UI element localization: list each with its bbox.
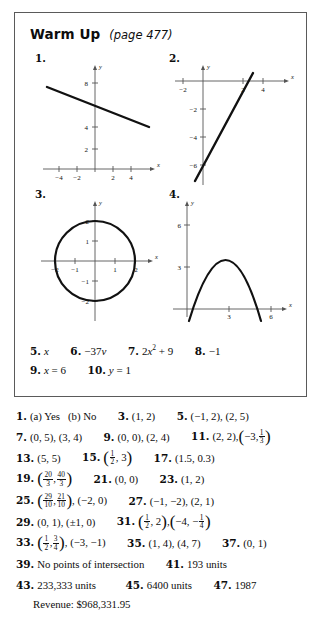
answer-row-9: 43.233,333 units 45.6400 units 47.1987 [16, 577, 312, 593]
answer-5-text: (−1, 2), (2, 5) [191, 410, 249, 422]
answer-31-tail1: , 2 [150, 515, 161, 527]
answer-number-17: 17. [154, 452, 172, 464]
svg-text:6: 6 [178, 222, 182, 230]
graph-4-plot: 3 6 3 6 x y [167, 193, 297, 325]
warm-up-number-7: 7. [128, 345, 139, 357]
svg-text:y: y [206, 63, 210, 70]
warm-up-number-10: 10. [88, 364, 106, 376]
answer-number-7: 7. [16, 431, 27, 443]
answer-47-text: 1987 [235, 579, 257, 591]
answer-45: 45.6400 units [125, 578, 192, 593]
answer-29-text: (0, 1), (±1, 0) [37, 516, 95, 528]
answer-1: 1.(a) Yes(b) No [16, 409, 96, 424]
svg-text:−4: −4 [55, 174, 63, 182]
answer-number-35: 35. [127, 537, 145, 549]
answer-25: 25.(2910,2110), (−2, 0) [16, 493, 107, 510]
answer-47: 47.1987 [213, 578, 256, 593]
warm-up-answer-8: 8.−1 [195, 345, 221, 359]
fraction-one-half: 12 [110, 450, 116, 466]
answer-37: 37.(0, 1) [222, 536, 267, 551]
svg-text:4: 4 [129, 174, 133, 182]
answer-1a-text: (a) Yes [30, 410, 60, 422]
answer-number-29: 29. [16, 516, 34, 528]
answer-35: 35.(1, 4), (4, 7) [127, 536, 200, 551]
exercise-answer-list: 1.(a) Yes(b) No 3.(1, 2) 5.(−1, 2), (2, … [16, 408, 312, 611]
warm-up-number-8: 8. [195, 345, 206, 357]
svg-text:6: 6 [269, 313, 273, 321]
warm-up-number-5: 5. [30, 345, 41, 357]
answer-row-2: 7.(0, 5), (3, 4) 9.(0, 0), (2, 4) 11.(2,… [16, 428, 312, 445]
svg-text:y: y [98, 63, 102, 70]
answer-17: 17.(1.5, 0.3) [154, 451, 215, 466]
answer-number-15: 15. [82, 451, 100, 463]
svg-text:3: 3 [178, 264, 182, 272]
graph-cell-4: 4. 3 6 3 6 x y [167, 189, 297, 324]
warm-up-answer-9: 9.x = 6 [30, 364, 66, 378]
answer-5: 5.(−1, 2), (2, 5) [177, 409, 249, 424]
svg-text:3: 3 [227, 313, 231, 321]
answer-7-text: (0, 5), (3, 4) [30, 431, 82, 443]
answer-number-23: 23. [160, 473, 178, 485]
svg-text:x: x [154, 253, 158, 260]
answer-41: 41.193 units [166, 557, 227, 572]
svg-text:y: y [190, 199, 194, 206]
answer-row-6: 29.(0, 1), (±1, 0) 31.(12, 2),(−4, −14) [16, 514, 312, 531]
svg-text:x: x [288, 301, 292, 308]
answer-35-text: (1, 4), (4, 7) [148, 537, 200, 549]
warm-up-answer-6: 6.−37v [70, 345, 106, 359]
answer-39: 39.No points of intersection [16, 557, 144, 572]
warm-up-panel: Warm Up(page 477) 1. −4 [14, 12, 307, 397]
answer-11-first-pair: (2, 2), [212, 430, 238, 442]
answer-3-text: (1, 2) [132, 410, 155, 422]
warm-up-answers: 5.x 6.−37v 7.2x2 + 9 8.−1 9.x = 6 10.y =… [30, 343, 300, 384]
graph-cell-3: 3. −2 −1 1 2 [33, 189, 163, 324]
answer-11: 11.(2, 2),(−3,13) [191, 429, 271, 446]
answer-17-text: (1.5, 0.3) [175, 452, 215, 464]
answer-31-second-x: −4, − [175, 515, 198, 527]
answer-number-33: 33. [16, 536, 34, 548]
svg-text:−1: −1 [71, 266, 79, 274]
answer-number-43: 43. [16, 579, 34, 591]
svg-text:−1: −1 [82, 278, 90, 286]
fraction-three-fourths: 34 [53, 535, 59, 551]
answer-43-text: 233,333 units [37, 579, 96, 591]
answer-number-19: 19. [16, 472, 34, 484]
answer-9: 9.(0, 0), (2, 4) [104, 430, 170, 445]
answer-row-3: 13.(5, 5) 15.(12, 3) 17.(1.5, 0.3) [16, 450, 312, 467]
warm-up-number-9: 9. [30, 364, 41, 376]
graph-3-plot: −2 −1 1 2 2 1 −1 −2 x y [33, 193, 163, 325]
answer-13: 13.(5, 5) [16, 451, 61, 466]
answer-11-second-x: −3, [244, 430, 258, 442]
fraction-one-fourth: 14 [199, 514, 205, 530]
answer-3: 3.(1, 2) [118, 409, 155, 424]
answer-39-text: No points of intersection [37, 558, 144, 570]
answer-key-page: Warm Up(page 477) 1. −4 [0, 0, 323, 628]
svg-text:1: 1 [86, 238, 90, 246]
warm-up-answer-5: 5.x [30, 345, 49, 359]
fraction-twenty-thirds: 203 [43, 471, 52, 487]
answer-23: 23.(1, 2) [160, 472, 205, 487]
warm-up-answer-7: 7.2x2 + 9 [128, 343, 173, 358]
answer-29: 29.(0, 1), (±1, 0) [16, 515, 95, 530]
answer-row-4: 19.(203,403) 21.(0, 0) 23.(1, 2) [16, 471, 312, 488]
svg-text:−6: −6 [190, 162, 198, 170]
warm-up-title: Warm Up [30, 26, 100, 42]
answer-row-5: 25.(2910,2110), (−2, 0) 27.(−1, −2), (2,… [16, 492, 312, 509]
warm-up-header: Warm Up(page 477) [30, 25, 173, 43]
svg-text:8: 8 [85, 80, 89, 88]
fraction-one-half-c: 12 [43, 535, 49, 551]
warm-up-answers-line-1: 5.x 6.−37v 7.2x2 + 9 8.−1 [30, 343, 300, 358]
svg-text:2: 2 [111, 174, 115, 182]
fraction-one-half-b: 12 [144, 514, 150, 530]
warm-up-answers-line-2: 9.x = 6 10.y = 1 [30, 364, 300, 378]
svg-text:−2: −2 [179, 86, 187, 94]
svg-text:−2: −2 [73, 174, 81, 182]
svg-text:4: 4 [261, 86, 265, 94]
answer-number-9: 9. [104, 431, 115, 443]
answer-number-1: 1. [16, 410, 27, 422]
svg-text:2: 2 [85, 146, 89, 154]
answer-33: 33.(12,34), (−3, −1) [16, 535, 106, 552]
graph-cell-1: 1. −4 −2 2 4 2 [33, 53, 163, 183]
svg-text:1: 1 [113, 266, 117, 274]
answer-21: 21.(0, 0) [94, 472, 139, 487]
